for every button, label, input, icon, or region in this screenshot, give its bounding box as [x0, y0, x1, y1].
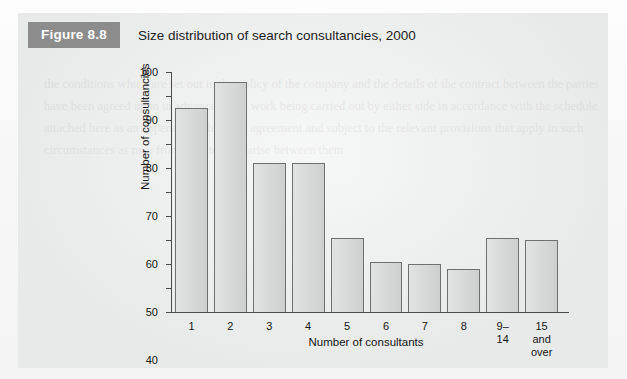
bar [175, 108, 208, 312]
y-axis-tick: 100 [166, 72, 171, 73]
bar [331, 238, 364, 312]
bar [370, 262, 403, 312]
y-axis-tick-label: 90 [146, 114, 158, 126]
x-axis-tick-label: 5 [344, 320, 350, 333]
bar [292, 163, 325, 312]
x-axis-tick-label: 2 [227, 320, 233, 333]
y-axis-tick-label: 60 [146, 258, 158, 270]
bar [408, 264, 441, 312]
y-axis-tick: 30 [166, 240, 171, 241]
y-axis-tick: 10 [166, 288, 171, 289]
y-axis-tick: 90 [166, 96, 171, 97]
scanned-page: the conditions which are set out in the … [0, 0, 627, 379]
x-axis-tick-label: 3 [266, 320, 272, 333]
bar-slot: 5 [328, 72, 367, 312]
bar [253, 163, 286, 312]
bar-slot: 8 [444, 72, 483, 312]
bar-slot: 3 [250, 72, 289, 312]
y-axis-tick-label: 80 [146, 162, 158, 174]
y-axis-tick: 80 [166, 120, 171, 121]
x-axis-tick-label: 6 [383, 320, 389, 333]
bar [525, 240, 558, 312]
figure-caption: Figure 8.8 Size distribution of search c… [28, 22, 416, 48]
y-axis-tick-label: 50 [146, 306, 158, 318]
y-axis-tick: 50 [166, 192, 171, 193]
bar-slot: 6 [367, 72, 406, 312]
x-axis-tick-label: 4 [305, 320, 311, 333]
bar-slot: 4 [289, 72, 328, 312]
y-axis-tick: 20 [166, 264, 171, 265]
y-axis-tick-label: 40 [146, 354, 158, 366]
y-axis-tick: 60 [166, 168, 171, 169]
bar [214, 82, 247, 312]
bar [447, 269, 480, 312]
bar-series: 123456789–1415 and over [172, 72, 561, 312]
bar [486, 238, 519, 312]
figure-number-badge: Figure 8.8 [28, 22, 120, 48]
y-axis-tick: 40 [166, 216, 171, 217]
bar-slot: 2 [211, 72, 250, 312]
figure-title: Size distribution of search consultancie… [138, 28, 416, 43]
bar-slot: 15 and over [522, 72, 561, 312]
x-axis-line [171, 312, 569, 313]
x-axis-tick-label: 7 [422, 320, 428, 333]
bar-slot: 1 [172, 72, 211, 312]
x-axis-title: Number of consultants [171, 336, 561, 348]
y-axis-tick: 0 [166, 312, 171, 313]
bar-slot: 9–14 [483, 72, 522, 312]
chart-area: Number of consultancies 0102030405060708… [18, 58, 608, 368]
x-axis-tick-label: 8 [461, 320, 467, 333]
y-axis-tick: 70 [166, 144, 171, 145]
y-axis-tick-label: 70 [146, 210, 158, 222]
x-axis-tick-label: 1 [188, 320, 194, 333]
figure-panel: the conditions which are set out in the … [18, 13, 608, 368]
y-axis-tick-label: 100 [140, 66, 158, 78]
plot-region: 0102030405060708090100 123456789–1415 an… [171, 72, 561, 312]
bar-slot: 7 [405, 72, 444, 312]
